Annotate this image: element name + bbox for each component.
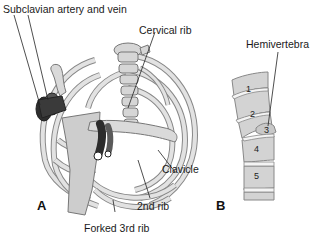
label-clavicle: Clavicle: [162, 164, 199, 175]
label-2nd-rib: 2nd rib: [137, 201, 169, 212]
vertebra-number-2: 2: [250, 110, 255, 119]
anatomy-figure: Subclavian artery and vein Cervical rib …: [0, 0, 320, 238]
label-hemivertebra: Hemivertebra: [246, 39, 309, 50]
hemivertebra-leader-line: [268, 52, 278, 126]
panel-label-a: A: [37, 199, 46, 212]
label-cervical-rib: Cervical rib: [139, 25, 192, 36]
vertebra-number-4: 4: [254, 145, 259, 154]
vertebra-number-1: 1: [246, 85, 251, 94]
vertebra-number-3: 3: [264, 126, 269, 135]
vertebra-number-5: 5: [254, 172, 259, 181]
panel-label-b: B: [216, 199, 225, 212]
label-forked-3rd-rib: Forked 3rd rib: [84, 223, 149, 234]
label-subclavian-artery-and-vein: Subclavian artery and vein: [3, 4, 127, 15]
